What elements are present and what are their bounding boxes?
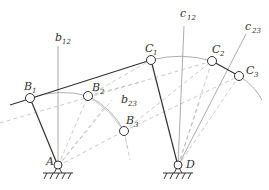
label-b3-sub: 3 — [134, 121, 139, 129]
label-c1-sub: 1 — [153, 49, 157, 57]
label-b23: b — [121, 93, 128, 106]
bisector-b23 — [58, 100, 112, 166]
joint-a — [54, 161, 62, 169]
label-b12: b — [55, 31, 62, 44]
label-c12: c — [180, 7, 186, 20]
label-b12-sub: 12 — [62, 38, 71, 46]
label-c23-sub: 23 — [251, 27, 261, 35]
label-c3-sub: 3 — [254, 71, 259, 79]
linkage-diagram: A D B 1 B 2 B 3 C 1 C 2 C 3 b 12 b 23 c … — [0, 0, 269, 190]
label-b1-sub: 1 — [32, 87, 36, 95]
joint-c3 — [235, 72, 244, 81]
label-c2-sub: 2 — [219, 50, 225, 58]
joint-b3 — [120, 127, 129, 136]
arc-b23 — [88, 96, 124, 131]
dashed-lines-a — [58, 60, 239, 166]
label-c12-sub: 12 — [187, 14, 196, 22]
label-b23-sub: 23 — [127, 100, 137, 108]
joint-c2 — [208, 57, 217, 66]
label-d: D — [185, 158, 195, 171]
joint-d — [174, 161, 182, 169]
arc-c12 — [151, 56, 212, 61]
label-b2: B — [91, 81, 100, 94]
arc-b23-inner — [91, 99, 121, 128]
label-a: A — [45, 155, 54, 168]
label-c23: c — [245, 20, 251, 33]
label-b3: B — [125, 114, 134, 127]
links — [10, 60, 239, 166]
label-b2-sub: 2 — [99, 88, 105, 96]
bisector-c12 — [178, 26, 184, 166]
label-b1: B — [23, 80, 32, 93]
